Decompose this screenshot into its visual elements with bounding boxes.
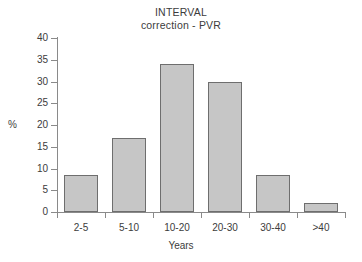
x-axis-tick bbox=[345, 213, 346, 218]
x-axis-tick-label: 30-40 bbox=[249, 222, 297, 233]
bar bbox=[304, 203, 338, 212]
x-axis-tick-label: 10-20 bbox=[153, 222, 201, 233]
x-axis-tick bbox=[153, 213, 154, 218]
x-axis-tick-label: >40 bbox=[297, 222, 345, 233]
x-axis-tick-label: 5-10 bbox=[105, 222, 153, 233]
x-axis-tick bbox=[249, 213, 250, 218]
x-axis-tick-label: 20-30 bbox=[201, 222, 249, 233]
y-axis-tick-label: 10 bbox=[4, 164, 48, 174]
plot-area bbox=[57, 38, 345, 212]
x-axis-label: Years bbox=[0, 240, 362, 251]
y-axis-tick-label: 20 bbox=[4, 120, 48, 130]
bar bbox=[208, 82, 242, 213]
bar bbox=[112, 138, 146, 212]
x-axis-tick-label: 2-5 bbox=[57, 222, 105, 233]
chart-title: INTERVAL correction - PVR bbox=[0, 6, 362, 32]
y-axis-tick-label: 30 bbox=[4, 77, 48, 87]
x-axis-tick bbox=[297, 213, 298, 218]
x-axis-tick bbox=[57, 213, 58, 218]
y-axis-tick-label: 0 bbox=[4, 207, 48, 217]
x-axis-tick bbox=[201, 213, 202, 218]
bar bbox=[256, 175, 290, 212]
y-axis-tick-label: 35 bbox=[4, 55, 48, 65]
chart-title-line-2: correction - PVR bbox=[0, 19, 362, 32]
y-axis-tick-label: 25 bbox=[4, 98, 48, 108]
x-axis-tick bbox=[105, 213, 106, 218]
y-axis-tick-label: 5 bbox=[4, 185, 48, 195]
chart-title-line-1: INTERVAL bbox=[0, 6, 362, 19]
y-axis-tick-label: 40 bbox=[4, 33, 48, 43]
y-axis-tick-label: 15 bbox=[4, 142, 48, 152]
bar-chart-figure: INTERVAL correction - PVR % 403530252015… bbox=[0, 0, 362, 262]
bar bbox=[160, 64, 194, 212]
bar bbox=[64, 175, 98, 212]
